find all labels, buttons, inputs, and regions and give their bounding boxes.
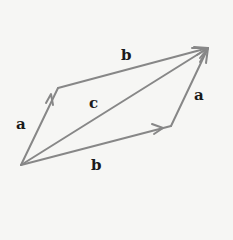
label-a-right: a xyxy=(194,88,204,103)
label-b-top: b xyxy=(121,48,132,63)
label-c: c xyxy=(89,96,98,111)
vector-b-top xyxy=(58,48,208,88)
label-a-left: a xyxy=(16,117,26,132)
arrowhead-a-left-icon xyxy=(46,94,53,105)
label-b-bottom: b xyxy=(91,158,102,173)
